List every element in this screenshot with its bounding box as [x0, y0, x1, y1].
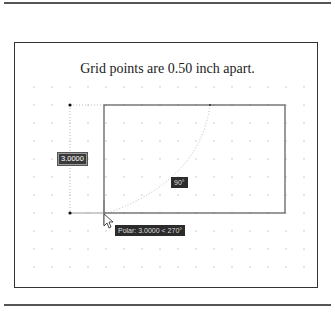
midpoint-marker — [209, 104, 211, 106]
angle-tooltip: 90° — [171, 177, 188, 188]
endpoint-marker — [68, 211, 71, 214]
cursor-arrow-icon — [104, 214, 113, 228]
polar-tooltip: Polar: 3.0000 < 270° — [115, 225, 185, 236]
endpoint-marker — [68, 103, 71, 106]
drawing-canvas[interactable] — [0, 0, 335, 312]
bottom-rule — [4, 304, 331, 306]
dimension-input[interactable]: 3.0000 — [58, 153, 87, 165]
rectangle-shape — [104, 105, 285, 213]
grid-points — [33, 86, 305, 268]
